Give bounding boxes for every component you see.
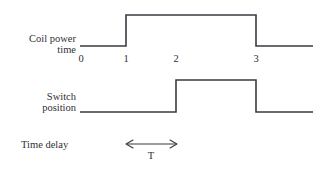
timing-diagram: Coil power time Switch position Time del…	[0, 0, 324, 173]
waveform-canvas	[0, 0, 324, 173]
coil-power-waveform	[80, 15, 313, 46]
switch-position-waveform	[80, 80, 313, 112]
